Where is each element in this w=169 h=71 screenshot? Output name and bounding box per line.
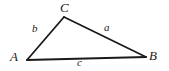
- side-label-c: c: [77, 57, 82, 68]
- vertex-label-c: C: [60, 1, 69, 14]
- triangle-figure: A B C b a c: [0, 0, 169, 71]
- side-label-a: a: [104, 22, 110, 33]
- triangle-drawing: [0, 0, 169, 71]
- side-label-b: b: [32, 23, 38, 34]
- vertex-label-a: A: [10, 50, 18, 63]
- vertex-label-b: B: [149, 49, 157, 62]
- side-c-line: [27, 57, 146, 60]
